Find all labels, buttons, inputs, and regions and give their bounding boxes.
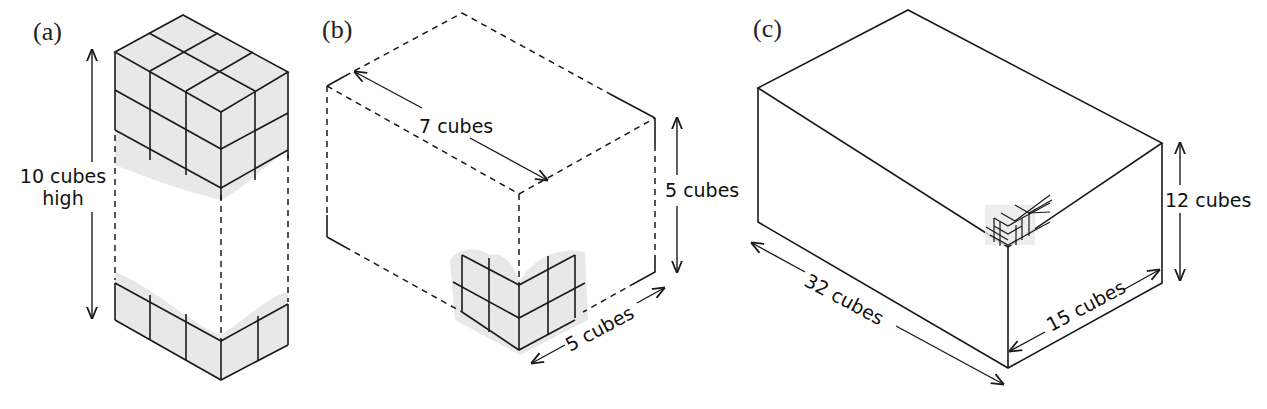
- panel-a-label: (a): [33, 17, 62, 46]
- height-label: 5 cubes: [665, 179, 739, 201]
- length-label: 32 cubes: [801, 269, 888, 329]
- large-box: [758, 10, 1162, 368]
- edge-seg: [327, 76, 345, 86]
- height-label-line2: high: [42, 187, 83, 209]
- length-arrow-upper: [752, 243, 805, 272]
- panel-b-label: (b): [322, 15, 352, 44]
- width-arrow-upper: [637, 288, 664, 303]
- edge-bottom-left-solid: [327, 237, 345, 247]
- shade-bottom: [115, 272, 288, 380]
- edge-front-left-top: [327, 86, 519, 194]
- length-label: 7 cubes: [419, 115, 493, 137]
- edge-top-left: [345, 13, 462, 76]
- panel-c-label: (c): [753, 14, 782, 43]
- edge-bottom-left: [345, 247, 462, 312]
- width-arrow-lower: [1010, 332, 1045, 351]
- width-arrow-lower: [532, 345, 565, 363]
- edge-top-right-solid: [610, 94, 655, 118]
- edge-right-bottom-solid: [635, 255, 655, 283]
- cube-diagrams: (a): [0, 0, 1267, 409]
- corner-unit-cubes: [985, 195, 1052, 246]
- edge-top-right: [462, 13, 610, 94]
- height-label-line1: 10 cubes: [20, 165, 106, 187]
- height-label: 12 cubes: [1165, 189, 1251, 211]
- edge-front-right-top: [519, 118, 655, 194]
- panel-a: (a): [20, 15, 288, 380]
- width-label: 15 cubes: [1043, 276, 1130, 336]
- panel-c: (c) 12 cubes 32 cubes: [752, 10, 1251, 384]
- length-arrow-upper: [355, 72, 422, 108]
- panel-b: (b) 7 cubes: [322, 13, 739, 363]
